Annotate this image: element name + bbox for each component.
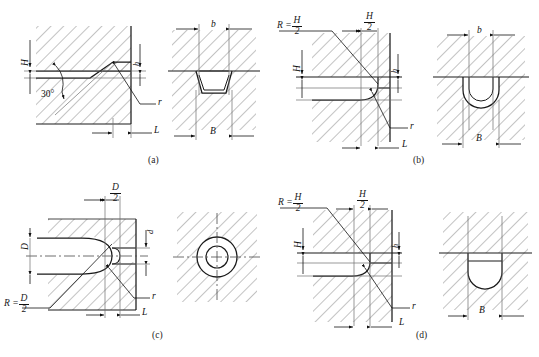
label-b-B: B (476, 134, 482, 144)
label-c-R-eq: R = (4, 299, 19, 309)
label-c-D: D (21, 243, 31, 250)
label-b-L: L (402, 140, 407, 150)
label-a-H: H (21, 59, 31, 66)
label-d-r: r (412, 302, 416, 312)
label-b-R-eq: R = (277, 21, 292, 31)
label-d-R-num: H (293, 193, 304, 203)
label-b-half-num: H (364, 12, 375, 22)
label-b-H: H (293, 65, 303, 72)
label-d-half: H2 (357, 190, 368, 210)
label-d-half-num: H (357, 190, 368, 200)
label-d-H: H (294, 241, 304, 248)
label-d-L: L (399, 318, 404, 328)
label-d-half-den: 2 (357, 200, 368, 211)
label-c-d: d (146, 230, 155, 234)
caption-c: (c) (152, 330, 163, 340)
label-b-h: h (390, 69, 399, 73)
caption-a: (a) (148, 155, 159, 165)
label-c-halfD: D2 (110, 183, 121, 203)
groove-outline-b (312, 77, 378, 100)
label-b-R-den: 2 (292, 26, 303, 37)
label-c-R: R =D2 (4, 294, 29, 314)
drawing-canvas (0, 0, 539, 357)
label-a-b: b (211, 20, 216, 30)
panel-a-end-view (168, 24, 260, 140)
hatch-upper-d (313, 210, 392, 253)
label-a-angle: 30° (41, 90, 54, 100)
label-b-half: H2 (364, 12, 375, 32)
label-c-halfD-num: D (110, 183, 121, 193)
label-c-R-den: 2 (19, 304, 30, 315)
label-b-r: r (410, 122, 414, 132)
panel-c-end-view (173, 212, 261, 302)
label-a-L: L (154, 126, 159, 136)
label-d-R: R =H2 (278, 193, 303, 213)
groove-outline-d (313, 253, 370, 276)
label-d-h: h (391, 244, 400, 248)
label-c-r: r (152, 292, 156, 302)
label-c-halfD-den: 2 (110, 193, 121, 204)
panel-b-section-view (279, 28, 408, 148)
caption-b: (b) (413, 155, 424, 165)
label-a-r: r (158, 98, 162, 108)
label-a-B: B (210, 127, 216, 137)
label-b-R-num: H (292, 16, 303, 26)
drawing-sheet: H h 30° r L b B (a) R =H2 H2 H h r L b B… (0, 0, 539, 357)
label-b-R: R =H2 (277, 16, 302, 36)
panel-b-end-view (433, 30, 529, 148)
label-a-h: h (132, 62, 141, 66)
panel-d-section-view (280, 205, 410, 327)
caption-d: (d) (416, 330, 427, 340)
label-d-R-eq: R = (278, 198, 293, 208)
panel-c-section-view (22, 196, 150, 318)
label-c-L: L (142, 308, 147, 318)
panel-a-section-view (24, 26, 156, 138)
label-c-R-num: D (19, 294, 30, 304)
label-d-R-den: 2 (293, 203, 304, 214)
label-b-b: b (477, 26, 482, 36)
panel-d-end-view (439, 212, 532, 320)
label-d-B: B (479, 306, 485, 316)
label-b-half-den: 2 (364, 22, 375, 33)
